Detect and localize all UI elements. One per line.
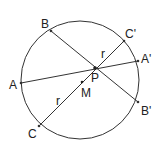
label-b-prime: B' bbox=[141, 104, 151, 118]
point-m bbox=[81, 81, 84, 84]
chord-cc-prime bbox=[39, 41, 124, 126]
label-r-upper: r bbox=[101, 47, 105, 61]
label-c: C bbox=[28, 127, 37, 141]
label-a-prime: A' bbox=[141, 52, 151, 66]
chord-aa-prime bbox=[21, 61, 138, 83]
geometry-diagram: A A' B B' C C' P M r r bbox=[0, 0, 162, 148]
point-p bbox=[93, 66, 97, 70]
label-b: B bbox=[41, 17, 49, 31]
label-m: M bbox=[81, 86, 91, 100]
label-r-lower: r bbox=[56, 94, 60, 108]
point-c bbox=[38, 125, 41, 128]
point-b bbox=[50, 30, 53, 33]
point-a-prime bbox=[137, 60, 140, 63]
point-a bbox=[20, 82, 23, 85]
label-p: P bbox=[91, 71, 99, 85]
label-c-prime: C' bbox=[125, 27, 136, 41]
label-a: A bbox=[9, 78, 17, 92]
point-b-prime bbox=[137, 101, 140, 104]
